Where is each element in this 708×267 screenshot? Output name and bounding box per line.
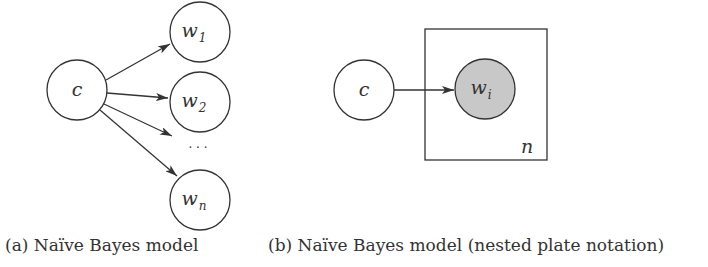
caption-a: (a) Naïve Bayes model bbox=[5, 235, 198, 255]
node-base: w bbox=[182, 187, 198, 209]
edge-c-dots bbox=[104, 104, 172, 136]
naive-bayes-figure: c w1 w2 · · · wn (a) Naïve Bayes model n… bbox=[0, 0, 708, 267]
figure-b: n c wi (b) Naïve Bayes model (nested pla… bbox=[268, 29, 664, 255]
class-node-label: c bbox=[359, 78, 370, 100]
node-subscript: i bbox=[488, 88, 492, 102]
node-subscript: n bbox=[199, 199, 207, 213]
word-node-w2: w2 bbox=[170, 72, 230, 132]
edge-c-w2 bbox=[107, 93, 168, 98]
class-node-label: c bbox=[72, 78, 83, 100]
word-node-w1: w1 bbox=[170, 2, 230, 62]
node-base: w bbox=[470, 76, 486, 98]
plate-label: n bbox=[521, 135, 533, 157]
ellipsis: · · · bbox=[188, 141, 207, 155]
class-node-a: c bbox=[47, 60, 107, 120]
edges-a bbox=[100, 44, 177, 176]
node-base: w bbox=[182, 89, 198, 111]
word-node-wn: wn bbox=[170, 170, 230, 230]
edge-c-w1 bbox=[106, 44, 170, 80]
caption-b: (b) Naïve Bayes model (nested plate nota… bbox=[268, 235, 664, 255]
figure-a: c w1 w2 · · · wn (a) Naïve Bayes model bbox=[5, 2, 230, 255]
node-subscript: 1 bbox=[199, 31, 207, 45]
node-base: w bbox=[182, 19, 198, 41]
node-subscript: 2 bbox=[198, 101, 207, 115]
observed-node-wi: wi bbox=[455, 59, 515, 119]
class-node-b: c bbox=[334, 60, 394, 120]
